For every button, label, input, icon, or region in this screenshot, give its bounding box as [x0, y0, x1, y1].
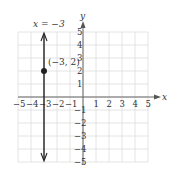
y-tick-label: −1 [74, 105, 87, 115]
point-neg3-2 [41, 68, 47, 74]
x-tick-label: −5 [13, 99, 26, 109]
y-tick-label: 5 [77, 27, 82, 37]
x-tick-label: 5 [146, 99, 151, 109]
x-tick-label: 1 [94, 99, 99, 109]
y-tick-label: −4 [74, 144, 87, 154]
y-tick-label: −2 [74, 118, 87, 128]
y-axis-label: y [79, 11, 86, 21]
x-axis-label: x [162, 92, 167, 102]
x-tick-label: 3 [120, 99, 125, 109]
y-tick-label: −5 [74, 157, 87, 167]
y-tick-label: 2 [77, 66, 82, 76]
x-axis-arrow-icon [154, 95, 161, 100]
x-tick-label: 4 [133, 99, 138, 109]
coordinate-plane: x y −5−4−3−2−112345 54321−1−2−3−4−5 (−3,… [0, 0, 175, 179]
y-tick-label: −3 [74, 131, 87, 141]
y-tick-label: 1 [77, 79, 82, 89]
point-label: (−3, 2) [48, 57, 80, 67]
y-tick-label: 4 [77, 40, 82, 50]
equation-label: x = −3 [33, 19, 65, 29]
x-tick-label: −3 [39, 99, 52, 109]
x-tick-label: −2 [52, 99, 65, 109]
x-tick-label: 2 [107, 99, 112, 109]
x-tick-label: −4 [26, 99, 39, 109]
